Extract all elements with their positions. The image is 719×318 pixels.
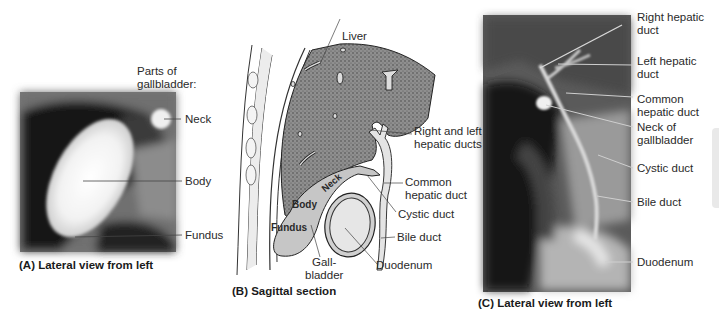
label-right-hepatic-duct-1: Right hepatic [637, 11, 704, 24]
label-common-hepatic-duct-c-2: hepatic duct [637, 106, 699, 119]
label-left-hepatic-duct-2: duct [637, 68, 659, 81]
label-neck-of-gallbladder-1: Neck of [637, 121, 676, 134]
caption-c: (C) Lateral view from left [478, 297, 612, 309]
label-common-hepatic-duct-c-1: Common [637, 93, 684, 106]
label-left-hepatic-duct-1: Left hepatic [637, 55, 696, 68]
page-edge-tab [712, 128, 719, 208]
label-right-hepatic-duct-2: duct [637, 24, 659, 37]
label-cystic-duct-c: Cystic duct [637, 162, 693, 175]
label-bile-duct-c: Bile duct [637, 196, 681, 209]
panel-c-radiograph [0, 0, 719, 318]
label-duodenum-c: Duodenum [637, 256, 693, 269]
label-neck-of-gallbladder-2: gallbladder [637, 134, 693, 147]
